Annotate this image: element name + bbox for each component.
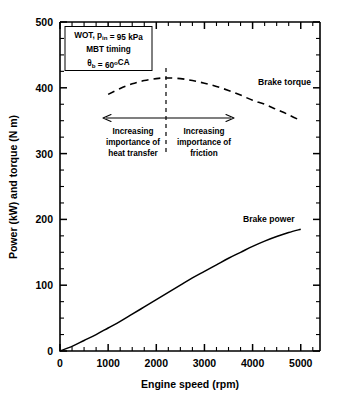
y-tick-label: 200 [35, 213, 53, 225]
y-tick-label: 300 [35, 148, 53, 160]
y-tick-label: 100 [35, 279, 53, 291]
heat-transfer-annotation: Increasingimportance ofheat transfer [106, 127, 160, 158]
x-tick-label: 0 [57, 357, 63, 369]
condition-line-timing: MBT timing [86, 45, 131, 54]
chart-background [0, 0, 339, 399]
x-tick-label: 3000 [193, 357, 217, 369]
heat-transfer-line: heat transfer [108, 149, 158, 158]
x-axis-title: Engine speed (rpm) [141, 378, 239, 390]
x-tick-label: 2000 [145, 357, 169, 369]
y-tick-label: 0 [47, 345, 53, 357]
friction-line: importance of [177, 138, 231, 147]
heat-transfer-line: Increasing [113, 127, 154, 136]
y-tick-label: 500 [35, 16, 53, 28]
heat-transfer-line: importance of [106, 138, 160, 147]
x-tick-label: 4000 [241, 357, 265, 369]
brake-power-label: Brake power [243, 214, 295, 224]
y-axis-title: Power (kW) and torque (N m) [7, 115, 19, 259]
engine-performance-chart: 010002000300040005000 0100200300400500 E… [0, 0, 339, 399]
chart-figure: 010002000300040005000 0100200300400500 E… [0, 0, 339, 399]
x-tick-label: 5000 [289, 357, 313, 369]
condition-annotation-box: WOT, pin = 95 kPa MBT timing θb = 60oCA [65, 27, 152, 71]
friction-line: Increasing [184, 127, 225, 136]
y-tick-label: 400 [35, 82, 53, 94]
x-tick-label: 1000 [96, 357, 120, 369]
friction-line: friction [190, 149, 218, 158]
brake-torque-label: Brake torque [258, 77, 311, 87]
